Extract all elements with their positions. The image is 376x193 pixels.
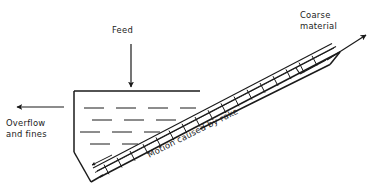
diagram-canvas: Feed Coarsematerial Overflowand fines Mo…: [0, 0, 376, 193]
coarse-material-label-line2: material: [300, 21, 337, 31]
feed-label: Feed: [112, 25, 133, 36]
rake-bar-upper: [93, 44, 332, 169]
overflow-label-line2: and fines: [6, 129, 47, 139]
rake-mechanism: [92, 44, 334, 175]
coarse-material-label: Coarsematerial: [300, 10, 337, 31]
coarse-material-arrow: [327, 35, 366, 60]
tank-lower-left-wall: [74, 152, 91, 182]
coarse-material-label-line1: Coarse: [300, 10, 331, 20]
overflow-label-line1: Overflow: [6, 118, 45, 128]
overflow-label: Overflowand fines: [6, 118, 47, 139]
